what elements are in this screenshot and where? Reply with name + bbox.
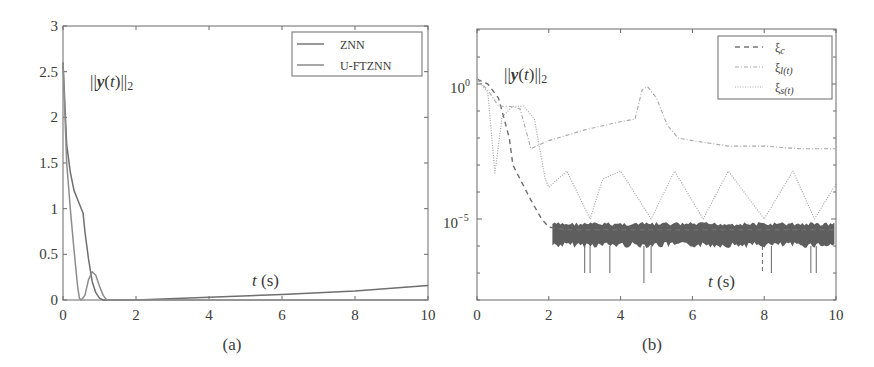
chart-b-series [477,79,836,230]
series-line-xi-c [477,79,836,230]
y-tick-label: 0.5 [39,246,58,262]
x-tick-label: 4 [205,307,213,323]
y-tick-label: 0 [51,292,59,308]
series-line-u-ftznn [63,63,428,301]
chart-b-annotation: ||y(t)||2 [504,65,547,86]
y-tick-label: 2 [51,109,59,125]
x-tick-label: 10 [829,307,844,323]
chart-b-panel-label: (b) [642,335,662,354]
x-tick-label: 4 [617,307,625,323]
x-tick-label: 0 [473,307,481,323]
figure-canvas: 0246810 00.511.522.53 ||y(t)||2 t (s) (a… [0,0,874,367]
x-tick-label: 2 [545,307,553,323]
chart-a-panel-label: (a) [223,335,242,354]
x-tick-label: 10 [421,307,436,323]
chart-a: 0246810 00.511.522.53 ||y(t)||2 t (s) (a… [39,18,435,354]
chart-b: 0246810 ||y(t)||2 t (s) (b) 100 10−5 ξc … [443,29,844,354]
legend-label-znn: ZNN [340,38,365,52]
x-tick-label: 6 [278,307,286,323]
chart-a-xlabel: t (s) [252,271,279,290]
noise-band-xi-c [552,222,834,248]
y-tick-label: 2.5 [39,64,58,80]
chart-b-xlabel: t (s) [708,272,735,291]
x-tick-label: 8 [351,307,359,323]
chart-b-legend: ξc ξl(t) ξs(t) [718,36,832,99]
chart-b-noise-band [552,222,834,283]
x-tick-label: 2 [132,307,140,323]
y-tick-label: 3 [51,18,59,34]
y-tick-label: 1.5 [39,155,58,171]
chart-a-legend: ZNN U-FTZNN [292,32,422,76]
legend-label-u-ftznn: U-FTZNN [340,59,392,73]
x-tick-label: 6 [689,307,697,323]
series-line-znn [63,63,428,301]
x-tick-label: 8 [760,307,768,323]
series-line-xi-s [477,79,836,219]
y-tick-label: 1 [51,201,59,217]
chart-a-series [63,63,428,301]
chart-b-ytick-1e-5: 10−5 [443,212,469,231]
x-tick-label: 0 [59,307,67,323]
chart-b-ytick-1e0: 100 [450,77,470,96]
chart-a-annotation: ||y(t)||2 [90,72,133,93]
